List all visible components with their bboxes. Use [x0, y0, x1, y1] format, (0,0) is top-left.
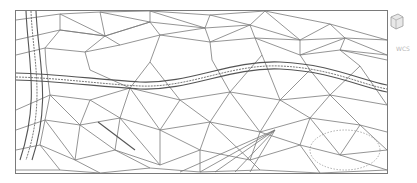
- viewport-frame: [15, 10, 388, 174]
- drawing-viewport[interactable]: WCS: [0, 0, 417, 183]
- viewcube-icon[interactable]: [389, 12, 405, 30]
- ucs-label: WCS: [396, 45, 410, 52]
